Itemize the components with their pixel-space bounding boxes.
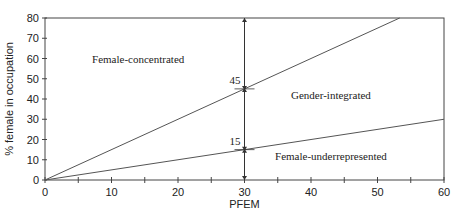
region-label: Female-concentrated (92, 53, 185, 65)
x-tick-label: 20 (172, 186, 184, 198)
y-tick-label: 70 (27, 32, 39, 44)
y-tick-label: 20 (27, 134, 39, 146)
y-tick-label: 50 (27, 73, 39, 85)
x-tick-label: 0 (42, 186, 48, 198)
y-tick-label: 0 (33, 174, 39, 186)
y-tick-label: 60 (27, 53, 39, 65)
annotations-group: 4515Female-concentratedGender-integrated… (92, 53, 387, 162)
region-label: Female-underrepresented (275, 150, 387, 162)
x-tick-label: 30 (238, 186, 250, 198)
y-tick-label: 30 (27, 113, 39, 125)
threshold-value-label: 15 (230, 135, 242, 147)
region-label: Gender-integrated (291, 89, 371, 101)
y-tick-label: 10 (27, 154, 39, 166)
y-tick-label: 40 (27, 93, 39, 105)
arrowhead-bottom (242, 176, 247, 180)
arrowhead-top (242, 18, 247, 22)
reference-line-group (235, 18, 255, 180)
x-tick-label: 40 (305, 186, 317, 198)
x-tick-label: 10 (105, 186, 117, 198)
axes: 010203040506070800102030405060 (27, 12, 450, 198)
chart: 010203040506070800102030405060 4515Femal… (0, 0, 462, 220)
x-axis-title: PFEM (229, 198, 260, 210)
x-tick-label: 50 (371, 186, 383, 198)
y-tick-label: 80 (27, 12, 39, 24)
y-axis-title: % female in occupation (3, 42, 15, 156)
threshold-value-label: 45 (230, 74, 242, 86)
x-tick-label: 60 (438, 186, 450, 198)
